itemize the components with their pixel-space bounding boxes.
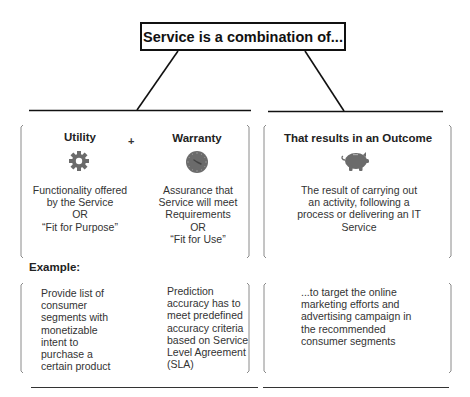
example-outcome-line: marketing efforts and [301, 298, 441, 310]
outcome-heading: That results in an Outcome [266, 132, 450, 144]
warranty-line: Requirements [148, 208, 248, 220]
example-warranty-line: accuracy criteria [167, 322, 257, 334]
example-warranty-line: Level Agreement [167, 346, 257, 358]
example-warranty-line: meet predefined [167, 309, 257, 321]
example-outcome-line: consumer segments [301, 335, 441, 347]
utility-line: OR [22, 208, 138, 220]
example-utility-line: consumer [41, 299, 141, 311]
example-outcome-text: ...to target the online marketing effort… [301, 286, 441, 347]
outcome-line: Service [280, 221, 438, 233]
piggy-bank-icon [339, 149, 373, 173]
utility-heading: Utility [40, 131, 120, 143]
example-utility-line: intent to [41, 336, 141, 348]
example-utility-line: certain product [41, 360, 141, 372]
example-label: Example: [29, 261, 80, 273]
utility-description: Functionality offered by the Service OR … [22, 184, 138, 233]
plus-sign: + [128, 135, 134, 147]
warranty-heading: Warranty [157, 132, 237, 144]
warranty-line: Service will meet [148, 196, 248, 208]
example-warranty-line: (SLA) [167, 358, 257, 370]
example-outcome-line: advertising campaign in [301, 310, 441, 322]
utility-line: “Fit for Purpose” [22, 221, 138, 233]
warranty-line: Assurance that [148, 184, 248, 196]
example-outcome-line: ...to target the online [301, 286, 441, 298]
gear-icon [68, 150, 90, 172]
example-utility-line: Provide list of [41, 287, 141, 299]
example-warranty-line: accuracy has to [167, 297, 257, 309]
warranty-line: OR [148, 221, 248, 233]
outcome-line: process or delivering an IT [280, 208, 438, 220]
outcome-line: The result of carrying out [280, 184, 438, 196]
outcome-description: The result of carrying out an activity, … [280, 184, 438, 233]
example-utility-line: monetizable [41, 324, 141, 336]
example-outcome-line: the recommended [301, 323, 441, 335]
example-warranty-line: based on Service [167, 334, 257, 346]
example-warranty-line: Prediction [167, 285, 257, 297]
warranty-line: “Fit for Use” [148, 233, 248, 245]
outcome-line: an activity, following a [280, 196, 438, 208]
example-utility-text: Provide list of consumer segments with m… [41, 287, 141, 372]
example-warranty-text: Prediction accuracy has to meet predefin… [167, 285, 257, 370]
example-utility-line: segments with [41, 311, 141, 323]
utility-line: Functionality offered [22, 184, 138, 196]
title-box: Service is a combination of... [140, 22, 346, 51]
utility-line: by the Service [22, 196, 138, 208]
clock-icon [185, 150, 209, 174]
example-utility-line: purchase a [41, 348, 141, 360]
warranty-description: Assurance that Service will meet Require… [148, 184, 248, 245]
